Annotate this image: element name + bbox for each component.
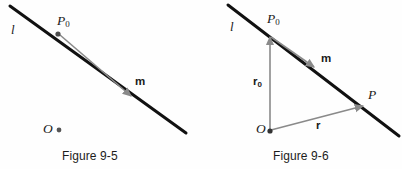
point-o-label: O: [43, 122, 53, 136]
point-p0-subscript: 0: [65, 19, 70, 29]
point-o-dot: [267, 128, 272, 133]
vector-r0-label: r0: [253, 76, 262, 89]
vector-m-arrow: [271, 37, 314, 67]
point-o-label: O: [256, 122, 266, 136]
line-l: [10, 6, 186, 133]
figure-9-5: l P0 O m Figure 9-5: [0, 0, 201, 169]
vector-m-label: m: [321, 53, 331, 65]
vector-m-arrow: [60, 35, 131, 96]
point-o-dot: [57, 128, 62, 133]
point-p0-subscript: 0: [275, 17, 280, 27]
line-l-label: l: [11, 23, 15, 36]
point-p0-letter: P: [57, 13, 65, 28]
figure-9-5-graphic: [0, 0, 201, 169]
line-l: [228, 5, 399, 136]
point-p0-dot: [55, 31, 60, 36]
point-p0-label: P0: [57, 14, 70, 29]
figure-9-6-caption: Figure 9-6: [273, 149, 329, 163]
figure-board: l P0 O m Figure 9-5 l P0 P O r0 m r Figu…: [0, 0, 402, 169]
figure-9-5-caption: Figure 9-5: [62, 149, 118, 163]
vector-r-label: r: [316, 120, 320, 132]
point-p0-label: P0: [267, 12, 280, 27]
vector-m-label: m: [135, 76, 145, 88]
point-p-label: P: [368, 88, 376, 102]
vector-r0-subscript: 0: [257, 80, 261, 89]
line-l-label: l: [230, 20, 234, 33]
figure-9-6: l P0 P O r0 m r Figure 9-6: [201, 0, 402, 169]
point-p0-letter: P: [267, 11, 275, 26]
